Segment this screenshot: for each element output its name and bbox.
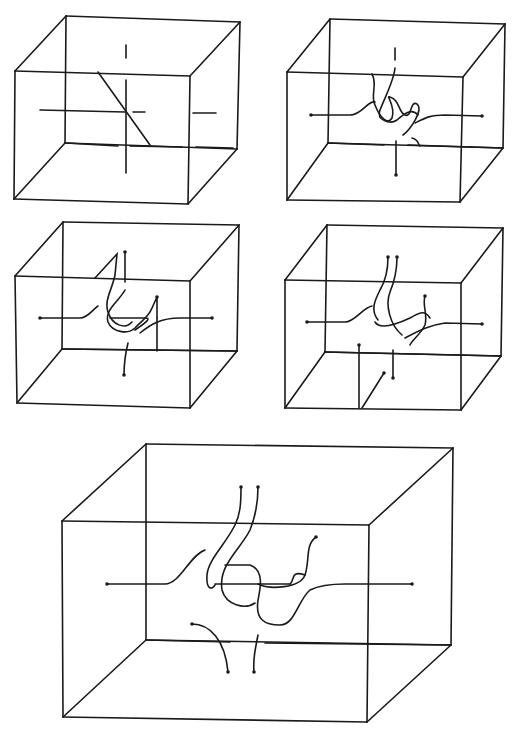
cube-edge	[190, 351, 237, 408]
tangle-strand	[328, 143, 384, 145]
tangle-strand	[225, 565, 412, 625]
strand-endpoint	[423, 294, 427, 298]
cube-edge	[460, 77, 463, 202]
cube-panels	[14, 16, 505, 722]
cube-edge	[15, 222, 63, 276]
tangle-strand	[265, 643, 451, 645]
cube-edge	[503, 24, 505, 148]
cube-edge	[14, 199, 188, 204]
tangle-strand	[307, 306, 372, 322]
tangle-strand	[40, 306, 98, 318]
tangle-strand	[140, 318, 212, 333]
tangle-strand	[410, 296, 426, 345]
cube-edge	[15, 71, 190, 76]
cube-4	[285, 225, 503, 410]
cube-edge	[325, 225, 327, 352]
cube-edge	[330, 19, 505, 24]
strand-endpoint	[391, 376, 395, 380]
cube-edge	[287, 200, 460, 202]
cube-edge	[63, 640, 146, 717]
cube-3	[15, 222, 239, 408]
strand-endpoint	[155, 295, 159, 299]
tangle-strand	[40, 110, 125, 112]
cube-edge	[15, 16, 66, 71]
cube-edge	[285, 225, 327, 280]
cube-edge	[66, 16, 240, 22]
cube-edge	[367, 645, 451, 722]
strand-endpoint	[309, 113, 313, 117]
cube-edge	[17, 403, 190, 408]
cube-edge	[461, 228, 503, 283]
tangle-strand	[311, 102, 375, 115]
cube-2	[287, 19, 505, 202]
cube-edge	[62, 444, 146, 521]
tangle-strand	[254, 635, 258, 672]
cube-edge	[188, 149, 237, 204]
cube-edge	[62, 521, 63, 717]
strand-endpoint	[382, 371, 386, 375]
strand-endpoint	[226, 670, 230, 674]
tangle-strand	[258, 537, 316, 587]
cube-edge	[327, 225, 503, 228]
strand-endpoint	[38, 316, 42, 320]
cube-edge	[367, 525, 369, 722]
tangle-strand	[408, 145, 503, 148]
cube-edge	[285, 352, 325, 408]
strand-endpoint	[305, 320, 309, 324]
cube-edge	[451, 448, 453, 645]
tangle-strand	[196, 147, 233, 148]
cube-edge	[65, 16, 66, 143]
tangle-strand	[362, 373, 384, 408]
strand-endpoint	[480, 114, 484, 118]
tangle-strand	[98, 72, 150, 145]
tangle-strand	[95, 254, 132, 326]
tangle-diagram	[0, 0, 519, 740]
cube-edge	[190, 22, 240, 76]
cube-edge	[146, 444, 453, 448]
cube-edge	[461, 356, 501, 410]
strand-endpoint	[394, 173, 398, 177]
tangle-strand	[375, 313, 430, 326]
cube-edge	[463, 24, 505, 77]
cube-5	[62, 444, 453, 722]
cube-edge	[63, 717, 367, 722]
strand-endpoint	[122, 373, 126, 377]
cube-edge	[14, 71, 15, 199]
strand-endpoint	[210, 316, 214, 320]
tangle-strand	[63, 349, 237, 351]
tangle-strand	[107, 550, 205, 584]
cube-edge	[287, 19, 330, 72]
tangle-strand	[372, 74, 419, 135]
strand-endpoint	[410, 582, 414, 586]
tangle-strand	[415, 115, 482, 123]
tangle-strand	[146, 640, 230, 642]
cube-edge	[237, 225, 239, 351]
cube-edge	[285, 280, 461, 283]
cube-edge	[287, 143, 328, 200]
cube-edge	[328, 19, 330, 143]
strand-endpoint	[105, 582, 109, 586]
strand-endpoint	[386, 255, 390, 259]
cube-edge	[15, 276, 17, 403]
strand-endpoint	[252, 670, 256, 674]
cube-edge	[190, 225, 239, 281]
tangle-strand	[374, 257, 388, 320]
cube-edge	[287, 72, 463, 77]
cube-edge	[188, 76, 190, 204]
strand-endpoint	[123, 250, 127, 254]
strand-endpoint	[357, 343, 361, 347]
cube-edge	[62, 222, 63, 349]
tangle-strand	[192, 624, 228, 672]
cube-edge	[501, 228, 503, 356]
cube-edge	[17, 349, 62, 403]
cube-edge	[15, 276, 190, 281]
cube-edge	[63, 222, 239, 225]
cube-edge	[237, 22, 240, 149]
strand-endpoint	[190, 622, 194, 626]
cube-1	[14, 16, 240, 204]
strand-endpoint	[314, 535, 318, 539]
strand-endpoint	[480, 322, 484, 326]
strand-endpoint	[239, 485, 243, 489]
tangle-strand	[325, 352, 501, 356]
tangle-strand	[124, 343, 128, 375]
